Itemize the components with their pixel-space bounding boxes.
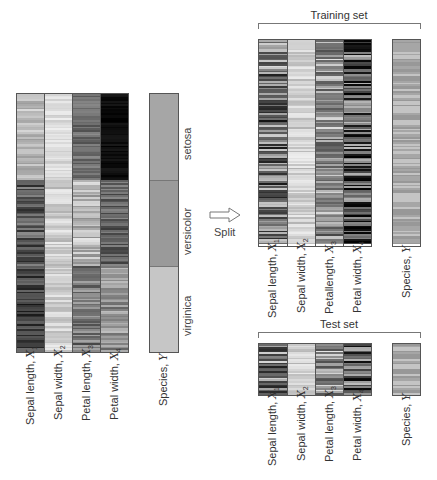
heatmap-column-petal-width bbox=[343, 343, 372, 396]
axis-label-sepal-width: Sepal width, X2 bbox=[295, 386, 309, 461]
heatmap-column-petal-length bbox=[315, 39, 344, 247]
species-segment-virginica bbox=[150, 267, 178, 353]
heatmap-column-petal-width bbox=[343, 39, 372, 247]
species-column bbox=[392, 39, 421, 247]
right-arrow-icon bbox=[209, 207, 241, 223]
axis-label-petal-width: Petal width, X4 bbox=[351, 241, 365, 313]
axis-label-petal-width: Petal width, X4 bbox=[108, 348, 122, 420]
heatmap-column-petal-length bbox=[72, 93, 101, 353]
heatmap-column-sepal-width bbox=[44, 93, 73, 353]
split-label: Split bbox=[214, 226, 235, 238]
test-set-bracket bbox=[258, 332, 421, 338]
class-label-versicolor: versicolor bbox=[181, 208, 193, 255]
axis-label-petal-length: Petal length, X3 bbox=[323, 386, 337, 462]
axis-label-sepal-length: Sepal length, X1 bbox=[266, 239, 280, 318]
training-set-title: Training set bbox=[258, 9, 420, 21]
axis-label-species: Species, Y bbox=[400, 245, 413, 298]
axis-label-petal-width: Petal width, X4 bbox=[351, 389, 365, 461]
test-set-title: Test set bbox=[258, 318, 420, 330]
heatmap-column-sepal-width bbox=[287, 39, 316, 247]
training-set-bracket bbox=[258, 23, 421, 29]
axis-label-sepal-width: Sepal width, X2 bbox=[52, 345, 66, 420]
heatmap-column-petal-width bbox=[100, 93, 129, 353]
species-column bbox=[392, 343, 421, 396]
species-column bbox=[149, 93, 179, 353]
axis-label-species: Species, Y bbox=[400, 393, 413, 446]
heatmap-column-sepal-length bbox=[258, 39, 288, 247]
axis-label-sepal-length: Sepal length, X1 bbox=[266, 387, 280, 466]
axis-label-sepal-width: Sepal width, X2 bbox=[295, 238, 309, 313]
axis-label-species: Species, Y bbox=[157, 353, 170, 406]
axis-label-petal-length: Petal length, X3 bbox=[80, 345, 94, 421]
class-label-setosa: setosa bbox=[181, 128, 193, 160]
species-segment-versicolor bbox=[150, 181, 178, 267]
axis-label-sepal-length: Sepal length, X1 bbox=[24, 346, 38, 425]
class-label-virginica: virginica bbox=[181, 296, 193, 336]
heatmap-column-sepal-length bbox=[16, 93, 45, 353]
species-segment-setosa bbox=[150, 94, 178, 181]
axis-label-petal-length: Petallength, X3 bbox=[323, 241, 337, 314]
